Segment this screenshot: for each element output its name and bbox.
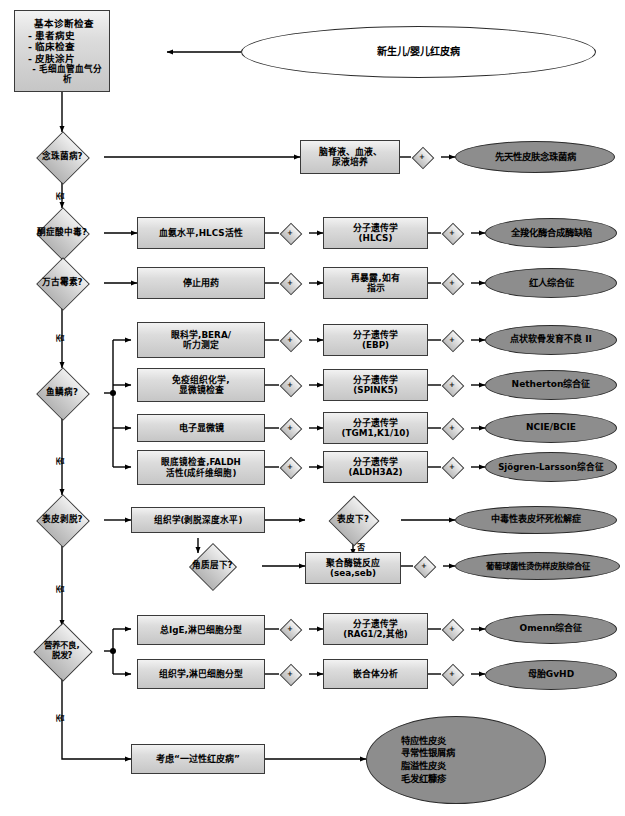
histology-box: 组织学(剥脱深度水平): [131, 507, 265, 533]
test-box: 眼科学,BERA/ 听力测定: [137, 322, 265, 358]
test-line: 指示: [367, 283, 385, 293]
basic-workup-box: 基本诊断检查 - 患者病史 - 临床检查 - 皮肤涂片 - 毛细血管血气分析: [14, 10, 110, 92]
test-box: 脑脊液、血液、 尿液培养: [300, 140, 400, 174]
test-line: 组织学,淋巴细胞分型: [159, 669, 243, 679]
test-line: (RAG1/2,其他): [343, 629, 408, 639]
decision-ketoacidosis[interactable]: 酮症酸中毒?: [26, 215, 98, 251]
final-outcome-line: 寻常性银屑病: [401, 747, 455, 760]
branch-junction-dot: [110, 390, 116, 396]
outcome-ellipse: 先天性皮肤念珠菌病: [455, 141, 615, 173]
test-line: 分子遗传学: [353, 457, 398, 467]
test-box: 总IgE,淋巴细胞分型: [137, 615, 265, 645]
genetics-box: 分子遗传学 (TGM1,K1/10): [323, 412, 428, 444]
no-label: 否: [54, 714, 65, 722]
basic-workup-item: - 患者病史: [21, 30, 75, 41]
no-label: 否: [54, 192, 65, 200]
test-line: (SPINK5): [353, 385, 397, 395]
test-line: 停止用药: [183, 278, 219, 289]
outcome-ellipse: 葡萄球菌性烫伤样皮肤综合征: [455, 552, 620, 580]
flowchart-canvas: 基本诊断检查 - 患者病史 - 临床检查 - 皮肤涂片 - 毛细血管血气分析 新…: [0, 0, 625, 816]
basic-workup-item: - 毛细血管血气分析: [21, 64, 106, 84]
test-line: 总IgE,淋巴细胞分型: [160, 625, 242, 635]
test-line: 聚合酶链反应: [326, 558, 380, 568]
reexposure-box: 再暴露,如有 指示: [323, 267, 428, 299]
no-label: 否: [54, 457, 65, 465]
outcome-ellipse: Sjögren-Larsson综合征: [485, 452, 617, 482]
test-box: 免疫组织化学, 显微镜检查: [137, 368, 265, 402]
final-outcome-line: 脂溢性皮炎: [401, 760, 446, 773]
test-box: 电子显微镜: [137, 414, 265, 442]
test-line: (ALDH3A2): [348, 467, 402, 477]
no-label: 否: [54, 585, 65, 593]
test-line: (TGM1,K1/10): [342, 428, 410, 438]
genetics-box: 分子遗传学 (ALDH3A2): [323, 451, 428, 483]
test-box: 组织学,淋巴细胞分型: [137, 659, 265, 689]
branch-junction-dot: [110, 648, 116, 654]
outcome-ellipse: 全羧化酶合成酶缺陷: [485, 218, 617, 248]
test-line: 分子遗传学: [353, 330, 398, 340]
genetics-box: 分子遗传学 (EBP): [323, 324, 428, 356]
test-line: 分子遗传学: [353, 619, 398, 629]
basic-workup-item: - 皮肤涂片: [21, 53, 75, 64]
test-line: (sea,seb): [330, 568, 376, 578]
test-line: 尿液培养: [332, 157, 368, 167]
decision-subcorneal[interactable]: 角质层下?: [162, 550, 262, 582]
test-box: 停止用药: [137, 267, 265, 299]
outcome-ellipse: 母胎GvHD: [485, 660, 617, 690]
outcome-ellipse: 红人综合征: [485, 268, 617, 298]
final-outcome-line: 毛发红糠疹: [401, 773, 446, 786]
outcome-ellipse: NCIE/BCIE: [485, 413, 617, 443]
genetics-box: 分子遗传学 (SPINK5): [323, 369, 428, 401]
test-line: (EBP): [362, 340, 389, 350]
test-line: 分子遗传学: [353, 418, 398, 428]
test-line: 血氨水平,HLCS活性: [159, 228, 242, 238]
outcome-ellipse: Netherton综合征: [485, 370, 617, 400]
test-line: 考虑“一过性红皮病”: [156, 754, 240, 765]
test-line: 活性(成纤维细胞): [166, 468, 237, 478]
test-line: (HLCS): [359, 233, 393, 243]
test-box: 眼底镜检查,FALDH 活性(成纤维细胞): [137, 450, 265, 485]
decision-ichthyosis[interactable]: 鱼鳞病?: [26, 375, 98, 411]
decision-epidermolysis[interactable]: 表皮剥脱?: [26, 502, 98, 538]
decision-vancomycin[interactable]: 万古霉素?: [26, 265, 98, 301]
outcome-ellipse: 点状软骨发育不良 II: [485, 325, 617, 355]
test-box: 血氨水平,HLCS活性: [137, 217, 265, 249]
test-line: 听力测定: [183, 340, 219, 350]
test-line: 免疫组织化学,: [172, 375, 229, 385]
test-line: 组织学(剥脱深度水平): [154, 515, 243, 525]
transient-erythroderma-box: 考虑“一过性红皮病”: [131, 744, 265, 774]
decision-candidiasis[interactable]: 念珠菌病?: [26, 139, 98, 175]
test-line: 显微镜检查: [179, 385, 224, 395]
test-line: 再暴露,如有: [351, 273, 399, 283]
test-line: 电子显微镜: [179, 423, 224, 434]
decision-subepidermal[interactable]: 表皮下?: [317, 503, 389, 537]
decision-malnutrition[interactable]: 营养不良, 脱发?: [20, 631, 104, 671]
no-label: 否: [54, 334, 65, 342]
test-line: 眼科学,BERA/: [171, 330, 231, 340]
basic-workup-heading: 基本诊断检查: [21, 18, 106, 29]
no-label: 否: [357, 541, 365, 552]
basic-workup-item: - 临床检查: [21, 41, 75, 52]
entry-ellipse: 新生儿/婴儿红皮病: [241, 26, 596, 78]
outcome-ellipse: Omenn综合征: [485, 614, 617, 644]
final-outcomes-ellipse: 特应性皮炎 寻常性银屑病 脂溢性皮炎 毛发红糠疹: [366, 716, 546, 804]
genetics-box: 分子遗传学 (HLCS): [323, 217, 428, 249]
test-line: 分子遗传学: [353, 223, 398, 233]
test-line: 脑脊液、血液、: [319, 147, 382, 157]
test-line: 分子遗传学: [353, 375, 398, 385]
outcome-ellipse: 中毒性表皮坏死松解症: [455, 506, 617, 534]
chimerism-box: 嵌合体分析: [323, 659, 428, 689]
final-outcome-line: 特应性皮炎: [401, 735, 446, 748]
genetics-box: 分子遗传学 (RAG1/2,其他): [323, 613, 428, 645]
test-line: 嵌合体分析: [353, 669, 398, 679]
test-line: 眼底镜检查,FALDH: [161, 457, 241, 467]
pcr-box: 聚合酶链反应 (sea,seb): [305, 552, 401, 584]
